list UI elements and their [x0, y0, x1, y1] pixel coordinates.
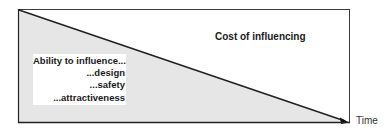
ability-label-line-4: ...attractiveness — [33, 92, 125, 104]
cost-of-influencing-label: Cost of influencing — [215, 31, 306, 42]
ability-label-line-3: ...safety — [33, 79, 125, 91]
ability-label-line-1: Ability to influence... — [33, 55, 125, 67]
ability-to-influence-label: Ability to influence... ...design ...saf… — [33, 54, 126, 105]
ability-label-line-2: ...design — [33, 67, 125, 79]
time-axis-label: Time — [356, 115, 378, 126]
